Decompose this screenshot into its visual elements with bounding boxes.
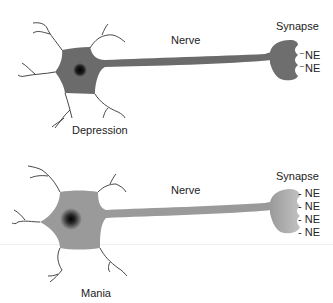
neurotransmitter-label: - NE [298, 213, 320, 225]
neurotransmitter-label: ⁻NE [299, 49, 320, 61]
nerve-label: Nerve [171, 34, 200, 46]
neurotransmitter-label: - NE [298, 187, 320, 199]
synapse-terminal [270, 189, 300, 233]
condition-label: Mania [81, 287, 111, 299]
nerve-label: Nerve [171, 184, 200, 196]
neurotransmitter-label: ⁻NE [299, 62, 320, 74]
synapse-label: Synapse [276, 20, 319, 32]
condition-label: Depression [72, 124, 128, 136]
synapse-label: Synapse [276, 170, 319, 182]
mania-neuron-panel: Mania Nerve Synapse - NE - NE - NE - NE [0, 150, 333, 303]
neurotransmitter-label: - NE [298, 200, 320, 212]
cell-body-and-axon [55, 47, 272, 94]
synapse-terminal [270, 40, 298, 80]
nucleus [60, 208, 82, 230]
depression-neuron-panel: Depression Nerve Synapse ⁻NE ⁻NE [0, 0, 333, 150]
nucleus [73, 63, 87, 77]
neurotransmitter-label: - NE [298, 226, 320, 238]
